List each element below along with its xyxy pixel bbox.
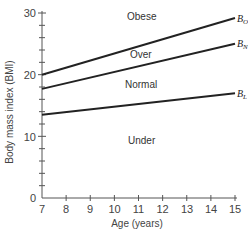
region-label-obese: Obese (127, 11, 157, 22)
x-tick-label: 10 (108, 203, 120, 215)
y-tick-label: 0 (30, 192, 36, 204)
x-tick-label: 14 (205, 203, 217, 215)
y-axis-title: Body mass index (BMI) (4, 60, 15, 163)
region-label-normal: Normal (125, 79, 157, 90)
y-tick-label: 10 (24, 131, 36, 143)
line-label-normal: BL (237, 88, 247, 101)
region-label-under: Under (128, 135, 156, 146)
y-tick-labels: 0 10 20 30 (24, 7, 36, 204)
line-end-labels: BO BN BL (237, 13, 248, 101)
x-tick-labels: 7 8 9 10 11 12 13 14 15 (39, 203, 241, 215)
x-tick-label: 11 (133, 203, 144, 215)
series-lines (42, 18, 235, 115)
x-axis-title: Age (years) (111, 218, 163, 229)
axes (38, 11, 237, 201)
bmi-chart: 0 10 20 30 7 8 9 10 11 12 13 14 15 Age (… (0, 0, 248, 232)
line-label-over: BN (237, 38, 248, 51)
line-label-obese: BO (237, 13, 248, 26)
region-label-over: Over (130, 49, 152, 60)
y-tick-label: 30 (24, 7, 36, 19)
y-tick-label: 20 (24, 69, 36, 81)
region-labels: Obese Over Normal Under (125, 11, 157, 146)
x-tick-label: 12 (156, 203, 168, 215)
x-tick-label: 8 (63, 203, 69, 215)
x-tick-label: 13 (181, 203, 193, 215)
series-line-b-l (42, 93, 235, 115)
x-tick-label: 7 (39, 203, 45, 215)
x-tick-label: 9 (87, 203, 93, 215)
x-tick-label: 15 (229, 203, 241, 215)
